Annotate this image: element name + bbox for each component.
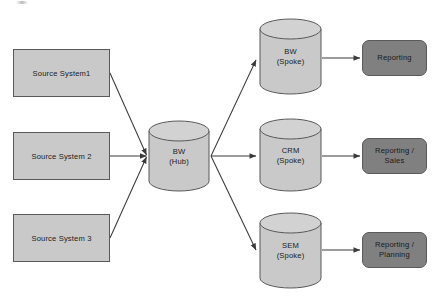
connector-source1-to-hub bbox=[110, 73, 147, 155]
source-system-3-box[interactable]: Source System 3 bbox=[13, 214, 110, 262]
connector-hub-to-bw-spoke bbox=[211, 60, 256, 156]
sem-spoke-cylinder[interactable]: SEM (Spoke) bbox=[259, 212, 322, 289]
bw-spoke-cylinder[interactable]: BW (Spoke) bbox=[259, 18, 322, 95]
reporting-planning-label: Reporting / Planning bbox=[375, 240, 414, 261]
reporting-sales-label-line1: Reporting / bbox=[375, 146, 414, 155]
source-system-2-box[interactable]: Source System 2 bbox=[13, 132, 110, 180]
connector-hub-to-sem-spoke bbox=[211, 156, 256, 250]
crm-spoke-cylinder[interactable]: CRM (Spoke) bbox=[259, 118, 322, 192]
reporting-sales-label: Reporting / Sales bbox=[375, 146, 414, 167]
source-system-1-box[interactable]: Source System1 bbox=[13, 49, 110, 97]
reporting-planning-label-line1: Reporting / bbox=[375, 240, 414, 249]
connector-source3-to-hub bbox=[110, 157, 147, 238]
bw-hub-cylinder[interactable]: BW (Hub) bbox=[148, 120, 210, 192]
diagram-canvas: Source System1 Source System 2 Source Sy… bbox=[0, 0, 443, 298]
source-system-2-label: Source System 2 bbox=[31, 152, 91, 161]
reporting-box[interactable]: Reporting bbox=[362, 40, 427, 76]
reporting-planning-box[interactable]: Reporting / Planning bbox=[362, 232, 427, 268]
reporting-sales-box[interactable]: Reporting / Sales bbox=[362, 138, 427, 174]
reporting-planning-label-line2: Planning bbox=[379, 250, 410, 259]
reporting-label: Reporting bbox=[377, 53, 411, 63]
source-system-1-label: Source System1 bbox=[33, 69, 91, 78]
source-system-3-label: Source System 3 bbox=[31, 234, 91, 243]
reporting-sales-label-line2: Sales bbox=[385, 156, 405, 165]
